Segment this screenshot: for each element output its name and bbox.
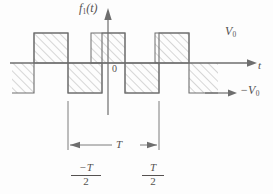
half-period-label: T 2 bbox=[142, 162, 164, 187]
half-period-numerator: T bbox=[142, 162, 164, 174]
time-axis-label: t bbox=[258, 60, 261, 71]
half-period-denominator: 2 bbox=[142, 176, 164, 188]
function-axis-label: f1(t) bbox=[79, 2, 98, 16]
period-dimension bbox=[70, 142, 157, 148]
neg-half-period-denominator: 2 bbox=[71, 176, 101, 188]
t-axis-arrowhead bbox=[247, 59, 257, 67]
function-argument: (t) bbox=[86, 1, 97, 15]
negative-amplitude-label: −V0 bbox=[240, 84, 259, 98]
negative-amplitude-symbol: −V bbox=[240, 83, 255, 97]
positive-amplitude-subscript: 0 bbox=[232, 30, 236, 39]
neg-half-period-label: −T 2 bbox=[71, 162, 101, 187]
period-label: T bbox=[116, 139, 122, 150]
negative-amplitude-arrowhead bbox=[228, 89, 237, 96]
negative-pulse bbox=[68, 63, 102, 93]
negative-pulse-partial-left bbox=[12, 63, 34, 93]
positive-pulse bbox=[34, 33, 68, 63]
positive-pulse-group bbox=[34, 33, 189, 63]
figure-container: f1(t) t V0 −V0 0 T −T 2 T 2 bbox=[0, 0, 273, 194]
positive-pulse bbox=[155, 33, 189, 63]
neg-half-period-numerator: −T bbox=[71, 162, 101, 174]
negative-pulse-partial-right bbox=[189, 63, 218, 93]
positive-amplitude-label: V0 bbox=[225, 25, 236, 39]
negative-amplitude-subscript: 0 bbox=[255, 89, 259, 98]
negative-pulse bbox=[125, 63, 159, 93]
f-axis-arrowhead bbox=[104, 8, 111, 20]
origin-label: 0 bbox=[112, 64, 117, 74]
